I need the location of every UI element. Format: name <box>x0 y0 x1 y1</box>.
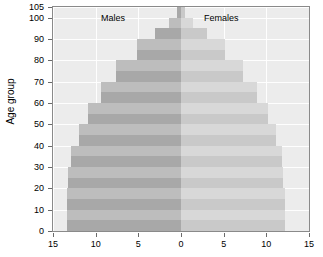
bar-row <box>53 114 309 125</box>
bar-male <box>137 39 181 50</box>
bar-male <box>101 82 181 93</box>
y-axis-tick-label: 50 <box>14 120 44 129</box>
bar-female <box>181 178 283 189</box>
bar-row <box>53 167 309 178</box>
bar-female <box>181 60 243 71</box>
bar-female <box>181 82 257 93</box>
x-axis-tick-label: 10 <box>254 240 278 249</box>
bar-male <box>71 146 181 157</box>
bar-male <box>67 210 181 221</box>
y-axis-tick-label: 90 <box>14 35 44 44</box>
bar-female <box>181 7 185 18</box>
bar-row <box>53 82 309 93</box>
bar-female <box>181 146 282 157</box>
bar-female <box>181 103 268 114</box>
bar-male <box>137 50 181 61</box>
x-axis-tick-label: 10 <box>84 240 108 249</box>
bar-male <box>68 178 181 189</box>
bar-male <box>67 199 181 210</box>
bar-row <box>53 156 309 167</box>
y-axis-tick-label: 70 <box>14 78 44 87</box>
y-axis-tick-label: 10 <box>14 206 44 215</box>
gridline-vertical <box>309 7 310 231</box>
bar-male <box>79 135 181 146</box>
y-axis-tick-label: 20 <box>14 184 44 193</box>
bar-female <box>181 220 285 231</box>
x-axis-tick-mark <box>266 233 267 237</box>
y-axis-tick-label: 40 <box>14 142 44 151</box>
bar-female <box>181 114 268 125</box>
bar-row <box>53 50 309 61</box>
bar-row <box>53 178 309 189</box>
x-axis-tick-label: 15 <box>297 240 321 249</box>
x-axis-tick-label: 0 <box>169 240 193 249</box>
bar-male <box>79 124 181 135</box>
bar-female <box>181 18 193 29</box>
bar-row <box>53 188 309 199</box>
bar-row <box>53 7 309 18</box>
bar-male <box>88 103 181 114</box>
bar-row <box>53 124 309 135</box>
bar-male <box>155 28 181 39</box>
bar-row <box>53 210 309 221</box>
bar-male <box>67 220 181 231</box>
series-label-males: Males <box>101 13 125 23</box>
x-axis-tick-mark <box>309 233 310 237</box>
bar-female <box>181 156 282 167</box>
bar-male <box>68 167 181 178</box>
bar-female <box>181 199 285 210</box>
y-axis-tick-label: 100 <box>14 14 44 23</box>
bar-male <box>67 188 181 199</box>
x-axis-tick-mark <box>96 233 97 237</box>
x-axis-tick-label: 15 <box>41 240 65 249</box>
bar-female <box>181 71 243 82</box>
bar-row <box>53 220 309 231</box>
bar-female <box>181 210 285 221</box>
bar-row <box>53 199 309 210</box>
bar-female <box>181 124 276 135</box>
bar-female <box>181 167 283 178</box>
bar-row <box>53 28 309 39</box>
bar-male <box>116 60 181 71</box>
x-axis-tick-mark <box>224 233 225 237</box>
bar-row <box>53 39 309 50</box>
y-axis-tick-label: 0 <box>14 227 44 236</box>
x-axis-tick-mark <box>53 233 54 237</box>
bar-row <box>53 18 309 29</box>
bar-female <box>181 39 225 50</box>
y-axis-tick-label: 60 <box>14 99 44 108</box>
bar-male <box>101 92 181 103</box>
x-axis-tick-label: 5 <box>126 240 150 249</box>
bar-female <box>181 92 257 103</box>
bar-female <box>181 135 276 146</box>
bar-row <box>53 103 309 114</box>
x-axis-tick-mark <box>138 233 139 237</box>
bar-row <box>53 92 309 103</box>
bar-male <box>71 156 181 167</box>
y-axis-tick-label: 30 <box>14 163 44 172</box>
series-label-females: Females <box>204 13 239 23</box>
y-axis-tick-label: 105 <box>14 3 44 12</box>
bar-row <box>53 71 309 82</box>
y-axis-tick-label: 80 <box>14 56 44 65</box>
bar-row <box>53 146 309 157</box>
population-pyramid-chart: Age group 0102030405060708090100105 1510… <box>0 0 323 257</box>
bar-male <box>116 71 181 82</box>
bar-row <box>53 135 309 146</box>
bar-row <box>53 60 309 71</box>
bar-male <box>169 18 181 29</box>
bar-male <box>88 114 181 125</box>
bar-female <box>181 50 225 61</box>
gridline-horizontal <box>53 231 309 232</box>
bar-female <box>181 188 285 199</box>
x-axis-tick-label: 5 <box>212 240 236 249</box>
plot-area <box>52 6 310 232</box>
x-axis-tick-mark <box>181 233 182 237</box>
bar-female <box>181 28 207 39</box>
